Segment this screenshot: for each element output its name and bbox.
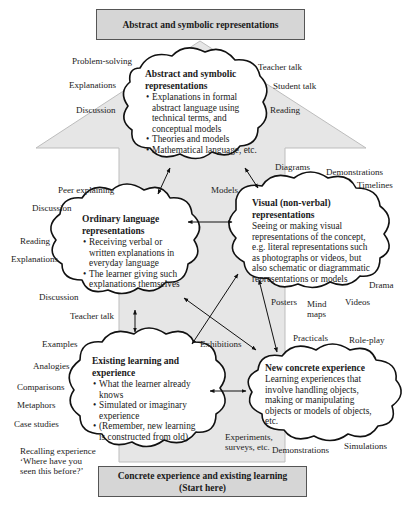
- label-mind-maps-2: maps: [307, 309, 326, 320]
- label-analogies: Analogies: [33, 361, 70, 372]
- label-practicals: Practicals: [293, 333, 328, 344]
- label-recalling-2: ‘Where have you: [20, 456, 82, 467]
- label-diagrams: Diagrams: [275, 162, 310, 173]
- cloud-existing-text: Existing learning and experience What th…: [92, 355, 196, 443]
- cloud-visual-title2: representations: [252, 209, 372, 221]
- label-recalling-3: seen this before?’: [20, 466, 83, 477]
- label-explanations-mid: Explanations: [11, 254, 58, 265]
- cloud-ordinary-title1: Ordinary language: [82, 213, 186, 225]
- label-reading-top: Reading: [270, 105, 300, 116]
- label-timelines: Timelines: [357, 180, 393, 191]
- cloud-concrete-body: Learning experiences that involve handli…: [265, 374, 381, 427]
- bullet: Explanations in formal abstract language…: [145, 92, 257, 134]
- bullet: Simulated or imaginary experience: [92, 400, 196, 421]
- label-experiments-1: Experiments,: [225, 432, 273, 443]
- bottom-box-line1: Concrete experience and existing learnin…: [118, 470, 288, 482]
- cloud-concrete-text: New concrete experience Learning experie…: [265, 362, 381, 427]
- bullet: Theories and models: [145, 134, 257, 145]
- label-discussion-low: Discussion: [39, 292, 79, 303]
- label-teacher-talk-low: Teacher talk: [70, 311, 114, 322]
- label-peer-explaining: Peer explaining: [58, 185, 114, 196]
- label-teacher-talk-top: Teacher talk: [258, 62, 302, 73]
- label-explanations-top: Explanations: [69, 80, 116, 91]
- bullet: Mathematical language, etc.: [145, 145, 257, 156]
- cloud-abstract-title1: Abstract and symbolic: [145, 68, 257, 80]
- label-discussion-top: Discussion: [76, 105, 116, 116]
- cloud-visual-title1: Visual (non-verbal): [252, 197, 372, 209]
- label-role-play: Role-play: [349, 335, 385, 346]
- label-discussion-mid: Discussion: [32, 203, 72, 214]
- cloud-ordinary-text: Ordinary language representations Receiv…: [82, 213, 186, 290]
- label-demonstrations-top: Demonstrations: [326, 167, 383, 178]
- label-demonstrations-low: Demonstrations: [272, 445, 329, 456]
- label-videos: Videos: [345, 297, 370, 308]
- label-recalling-1: Recalling experience: [20, 446, 96, 457]
- cloud-existing-title2: experience: [92, 367, 196, 379]
- cloud-ordinary-title2: representations: [82, 225, 186, 237]
- bullet: (Remember, new learning is constructed f…: [92, 421, 196, 442]
- label-student-talk: Student talk: [273, 81, 316, 92]
- label-metaphors: Metaphors: [17, 400, 56, 411]
- label-simulations: Simulations: [344, 441, 387, 452]
- label-drama: Drama: [369, 280, 394, 291]
- label-experiments-2: surveys, etc.: [225, 442, 270, 453]
- label-exhibitions: Exhibitions: [200, 339, 242, 350]
- top-box-label: Abstract and symbolic representations: [122, 19, 278, 31]
- label-mind-maps-1: Mind: [307, 299, 327, 310]
- label-problem-solving: Problem-solving: [72, 56, 132, 67]
- top-box-abstract: Abstract and symbolic representations: [96, 9, 305, 40]
- label-models: Models: [211, 185, 238, 196]
- bullet: Receiving verbal or written explanations…: [82, 237, 186, 269]
- label-reading-mid: Reading: [20, 236, 50, 247]
- cloud-abstract-title2: representations: [145, 80, 257, 92]
- bullet: The learner giving such explanations the…: [82, 269, 186, 290]
- label-case-studies: Case studies: [14, 419, 59, 430]
- cloud-abstract-text: Abstract and symbolic representations Ex…: [145, 68, 257, 156]
- label-examples: Examples: [42, 339, 78, 350]
- bullet: What the learner already knows: [92, 379, 196, 400]
- bottom-box-line2: (Start here): [179, 482, 226, 494]
- cloud-concrete-title: New concrete experience: [265, 362, 381, 374]
- label-comparisons: Comparisons: [17, 382, 65, 393]
- bottom-box-concrete: Concrete experience and existing learnin…: [98, 466, 307, 497]
- cloud-visual-text: Visual (non-verbal) representations Seei…: [252, 197, 372, 285]
- label-posters: Posters: [271, 297, 297, 308]
- cloud-existing-title1: Existing learning and: [92, 355, 196, 367]
- cloud-visual-body: Seeing or making visual representations …: [252, 221, 372, 285]
